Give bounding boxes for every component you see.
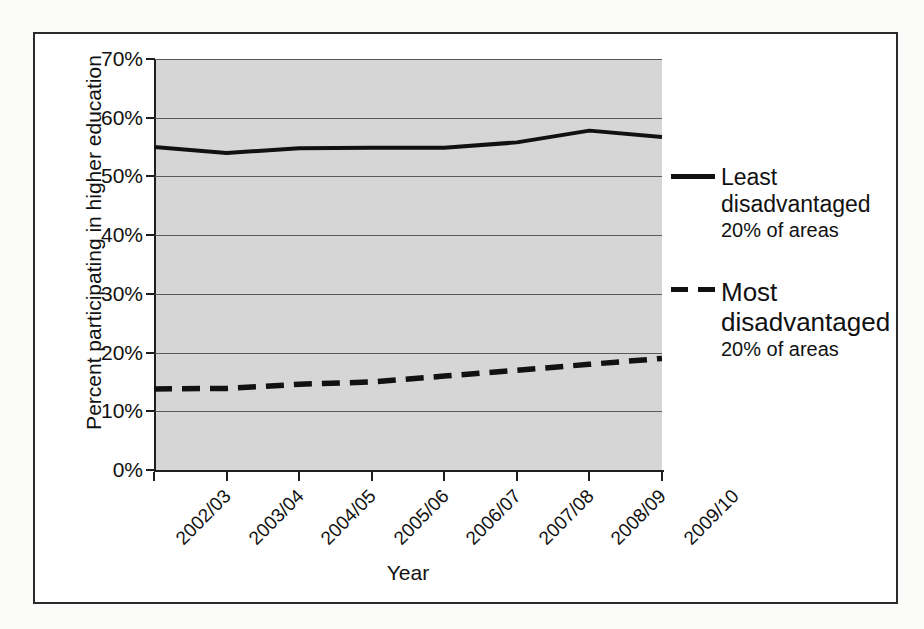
x-axis-tick-label: 2009/10	[680, 486, 742, 548]
legend-most-line1: Most	[721, 277, 896, 307]
legend-text-most: Most disadvantaged 20% of areas	[721, 277, 896, 362]
x-axis-title: Year	[154, 562, 662, 583]
x-axis-tick-label: 2005/06	[390, 486, 452, 548]
legend-most-line3: 20% of areas	[721, 337, 896, 362]
legend-entry-most-disadvantaged: Most disadvantaged 20% of areas	[671, 277, 896, 362]
legend-line-sample-solid	[671, 174, 715, 179]
x-axis-tick	[371, 472, 373, 481]
y-axis-tick-label: 0%	[43, 459, 143, 480]
legend-most-line2: disadvantaged	[721, 307, 896, 337]
legend-least-line3: 20% of areas	[721, 218, 896, 243]
x-axis-tick	[661, 472, 663, 481]
series-line-least-disadvantaged	[154, 131, 662, 153]
line-chart: 0%10%20%30%40%50%60%70% 2002/032003/0420…	[35, 34, 900, 602]
x-axis-tick-label: 2003/04	[245, 486, 307, 548]
x-axis-tick	[588, 472, 590, 481]
x-axis-tick-label: 2006/07	[462, 486, 524, 548]
legend-least-line2: disadvantaged	[721, 191, 896, 218]
x-axis-tick	[226, 472, 228, 481]
series-layer	[154, 59, 662, 470]
x-axis-tick-label: 2008/09	[608, 486, 670, 548]
series-line-most-disadvantaged	[154, 358, 662, 389]
legend-entry-least-disadvantaged: Least disadvantaged 20% of areas	[671, 164, 896, 243]
legend-line-sample-dashed	[671, 287, 715, 292]
x-axis-tick-label: 2002/03	[172, 486, 234, 548]
y-axis-title: Percent participating in higher educatio…	[83, 33, 104, 453]
x-axis-tick	[516, 472, 518, 481]
x-axis-tick	[298, 472, 300, 481]
chart-legend: Least disadvantaged 20% of areas Most di…	[671, 164, 896, 396]
legend-least-line1: Least	[721, 164, 896, 191]
x-axis-tick-label: 2004/05	[317, 486, 379, 548]
legend-text-least: Least disadvantaged 20% of areas	[721, 164, 896, 243]
x-axis-tick	[443, 472, 445, 481]
figure-frame: 0%10%20%30%40%50%60%70% 2002/032003/0420…	[33, 32, 898, 604]
x-axis-tick	[153, 472, 155, 481]
x-axis-tick-label: 2007/08	[535, 486, 597, 548]
